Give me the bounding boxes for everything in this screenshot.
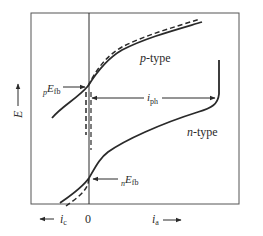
energy-axis-label: E <box>11 110 25 119</box>
origin-label: 0 <box>85 212 91 226</box>
n-flatband-label: nEfb <box>121 173 138 188</box>
p-flatband-sub: fb <box>54 87 61 96</box>
anodic-current-label: ia <box>152 212 159 227</box>
p-flatband-label: pEfb <box>42 82 60 97</box>
diagram-canvas: E p-type n-type pEfb nEfb iph ic 0 ia <box>0 0 263 236</box>
n-flatband-sub: fb <box>132 178 139 187</box>
p-type-curve-solid <box>52 22 202 118</box>
n-type-label-suffix: -type <box>193 125 218 139</box>
photocurrent-label: iph <box>147 91 158 106</box>
photocurrent-sub: ph <box>150 97 158 106</box>
cathodic-current-label: ic <box>60 212 67 227</box>
anodic-sub: a <box>155 218 159 227</box>
p-type-label-suffix: -type <box>146 51 171 65</box>
p-type-label-prefix: p <box>139 51 146 65</box>
cathodic-sub: c <box>63 218 67 227</box>
p-type-label: p-type <box>139 51 171 65</box>
n-type-label: n-type <box>187 125 218 139</box>
